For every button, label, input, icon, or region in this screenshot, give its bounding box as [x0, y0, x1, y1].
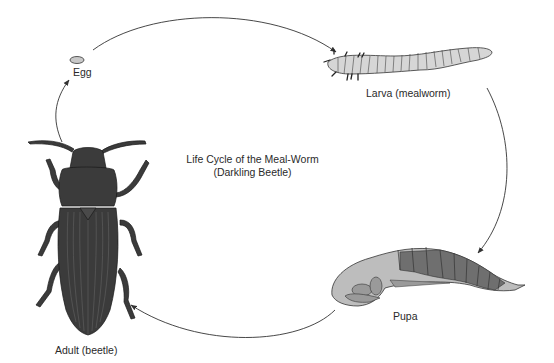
pupa-label: Pupa [393, 310, 418, 322]
egg-illustration [70, 57, 84, 64]
arrow-adult-to-egg [56, 80, 69, 142]
adult-label: Adult (beetle) [55, 344, 117, 356]
diagram-title: Life Cycle of the Meal-Worm (Darkling Be… [180, 153, 325, 179]
pupa-illustration [332, 247, 525, 306]
larva-illustration [324, 48, 492, 80]
arrow-pupa-to-adult [131, 305, 335, 338]
egg-label: Egg [73, 66, 92, 78]
title-line-2: (Darkling Beetle) [180, 166, 325, 179]
larva-label: Larva (mealworm) [366, 87, 451, 99]
arrow-egg-to-larva [93, 18, 336, 52]
arrow-larva-to-pupa [478, 88, 507, 253]
title-line-1: Life Cycle of the Meal-Worm [180, 153, 325, 166]
adult-beetle-illustration [28, 141, 149, 335]
